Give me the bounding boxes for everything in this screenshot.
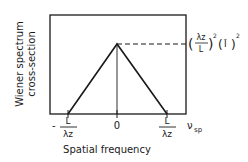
peak-frac-denominator: L [199, 45, 204, 54]
tick-right-numerator: L [164, 116, 169, 126]
x-axis-variable: ν sp [187, 120, 203, 134]
tick-label-right: L λz [159, 116, 176, 139]
tick-label-left: - L λz [52, 116, 77, 139]
x-variable-symbol: ν [187, 120, 193, 131]
y-axis-label-line1: Wiener spectrum [14, 21, 25, 107]
paren-open-1: ( [188, 36, 193, 52]
paren-close-2: ) [231, 38, 236, 52]
peak-exponent-2: 2 [236, 32, 240, 39]
plot-frame [50, 15, 186, 114]
x-axis-label: Spatial frequency [63, 144, 151, 155]
tick-left-sign: - [52, 120, 56, 131]
peak-exponent-1: 2 [213, 32, 217, 39]
tick-left-denominator: λz [63, 129, 73, 139]
tick-left-numerator: L [65, 116, 70, 126]
tick-right-denominator: λz [162, 129, 172, 139]
y-axis-label-line2: cross-section [26, 31, 37, 97]
y-axis-label: Wiener spectrum cross-section [14, 21, 37, 107]
paren-open-2: ( [218, 38, 223, 52]
triangle-curve [68, 44, 167, 114]
x-variable-subscript: sp [194, 126, 203, 134]
peak-ibar: Ī [224, 39, 227, 49]
wiener-spectrum-diagram: Wiener spectrum cross-section - L λz 0 L… [0, 0, 248, 162]
peak-value-label: ( λz L ) 2 ( Ī ) 2 [188, 32, 240, 54]
peak-frac-numerator: λz [197, 33, 206, 42]
tick-label-center: 0 [114, 120, 120, 131]
